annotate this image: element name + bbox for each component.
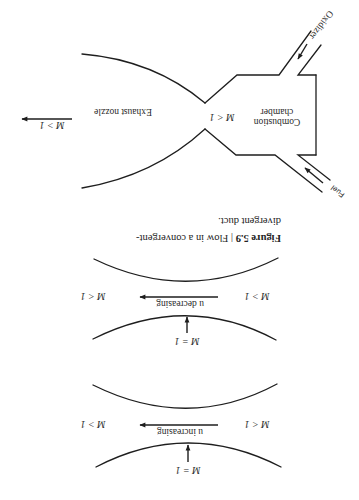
duct-increasing-outlet-mach: M > 1 [80,419,106,430]
duct-increasing-flow-label: u increasing [157,427,203,437]
duct-decreasing-inlet-mach: M > 1 [244,291,270,302]
duct-decreasing-flow-label: u decreasing [156,299,204,309]
duct-increasing-throat-mach: M = 1 [175,465,201,476]
oxidizer-label: Oxidizer [307,9,335,42]
caption-text-1: Flow in a convergent- [136,233,229,244]
chamber-bottom-wall-front [205,31,311,103]
duct-increasing-inlet-mach: M < 1 [244,419,270,430]
duct-decreasing-lower-wall [94,258,278,281]
caption-figure-number: Figure 5.9 [236,233,281,244]
rotated-figure: Fuel Oxidizer Combustion chamber M < 1 E… [22,9,346,476]
duct-increasing: u increasing M < 1 M > 1 M = 1 [80,384,281,476]
exit-mach-label: M > 1 [39,120,65,131]
figure-caption: Figure 5.9 | Flow in a convergent- diver… [136,216,281,244]
fuel-label: Fuel [329,183,346,199]
duct-increasing-lower-wall [93,384,277,408]
rocket-diagram: Fuel Oxidizer Combustion chamber M < 1 E… [22,9,346,200]
figure-canvas: Fuel Oxidizer Combustion chamber M < 1 E… [0,0,359,500]
caption-line-1: Figure 5.9 | Flow in a convergent- [136,233,281,244]
duct-decreasing-throat-mach: M = 1 [174,336,200,347]
chamber-mach-label: M < 1 [209,112,235,123]
duct-decreasing: u decreasing M > 1 M < 1 M = 1 [80,258,278,347]
caption-separator: | [228,233,235,244]
chamber-label-line2: chamber [260,107,294,117]
nozzle-upper-wall [82,129,205,188]
nozzle-label: Exhaust nozzle [94,107,152,117]
chamber-label-line1: Combustion [254,117,301,127]
duct-decreasing-outlet-mach: M < 1 [80,291,106,302]
caption-line-2: divergent duct. [218,216,281,227]
nozzle-lower-wall [82,54,205,103]
chamber-bottom-wall-back [298,45,321,75]
